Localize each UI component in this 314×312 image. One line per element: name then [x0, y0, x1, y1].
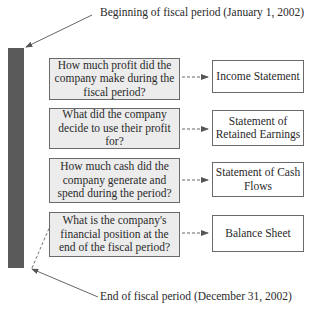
end-label: End of fiscal period (December 31, 2002)	[100, 290, 292, 302]
fiscal-period-bar	[8, 48, 24, 268]
beginning-label: Beginning of fiscal period (January 1, 2…	[100, 6, 304, 18]
statement-box-retained-earnings: Statement of Retained Earnings	[212, 110, 304, 146]
question-box-use-of-profit: What did the company decide to use their…	[49, 108, 180, 149]
question-box-financial-position: What is the company's financial position…	[49, 212, 180, 257]
question-box-cash: How much cash did the company generate a…	[49, 158, 180, 203]
question-box-profit: How much profit did the company make dur…	[49, 58, 180, 100]
statement-box-balance-sheet: Balance Sheet	[212, 215, 304, 252]
statement-box-cash-flows: Statement of Cash Flows	[212, 162, 304, 197]
statement-box-income: Income Statement	[212, 60, 304, 93]
connector-arrows	[0, 0, 314, 312]
